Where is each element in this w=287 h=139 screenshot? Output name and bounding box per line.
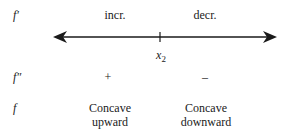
f-left-value: Concave upward <box>89 101 131 129</box>
fdoubleprime-left-value: + <box>105 70 112 85</box>
f-right-value: Concave downward <box>181 101 232 129</box>
number-line <box>0 0 287 139</box>
f-left-line1: Concave <box>89 101 131 115</box>
f-left-line2: upward <box>89 115 131 129</box>
fdoubleprime-label: f″ <box>13 70 21 85</box>
fdoubleprime-right-value: – <box>202 70 208 85</box>
f-label: f <box>13 101 16 116</box>
fprime-right-value: decr. <box>194 8 217 23</box>
fprime-label: f′ <box>13 8 19 23</box>
f-right-line1: Concave <box>181 101 232 115</box>
point-label-subscript: 2 <box>161 54 166 64</box>
point-label: x2 <box>156 48 166 64</box>
f-right-line2: downward <box>181 115 232 129</box>
fprime-left-value: incr. <box>105 8 126 23</box>
